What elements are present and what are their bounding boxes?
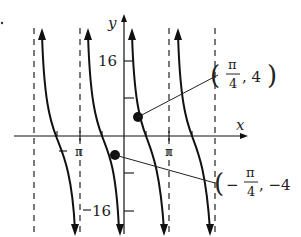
leader-line-1 [138, 75, 218, 117]
cotangent-graph: x y 16 16 π π [0, 0, 301, 237]
x-tick-pi: π [165, 145, 173, 159]
svg-text:(: ( [210, 60, 220, 90]
curve-branches [42, 34, 210, 230]
branch-4 [178, 34, 210, 230]
svg-text:4: 4 [229, 76, 237, 91]
y-axis-label: y [107, 14, 117, 32]
branch-1 [42, 34, 75, 230]
svg-text:4: 4 [247, 184, 255, 199]
svg-text:): ) [267, 60, 277, 90]
point-label-2: ( − π 4 , −4 [214, 165, 291, 199]
stray-mark [1, 22, 3, 24]
arrowheads-down [71, 224, 214, 236]
y-tick-neg16: 16 [92, 202, 111, 220]
x-axis-label: x [236, 116, 245, 134]
svg-text:π: π [246, 165, 255, 180]
svg-text:, 4: , 4 [242, 68, 261, 86]
svg-text:(: ( [214, 168, 224, 198]
svg-text:−: − [226, 176, 239, 194]
svg-text:π: π [228, 57, 237, 72]
x-tick-neg-pi: π [75, 145, 83, 159]
branch-3 [132, 34, 164, 230]
svg-text:, −4: , −4 [259, 176, 291, 194]
point-label-1: ( π 4 , 4 ) [210, 57, 277, 91]
y-tick-16: 16 [98, 52, 117, 70]
